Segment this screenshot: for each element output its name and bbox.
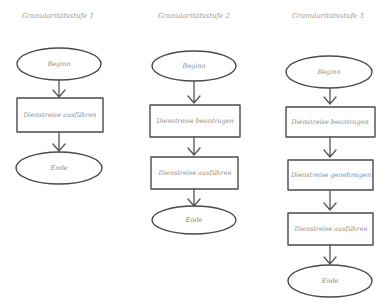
- arrow-down-icon: [324, 137, 336, 157]
- arrow-down-icon: [324, 190, 336, 210]
- column-granularity-3: Granularitätsstufe 3 Beginn Dienstreise …: [286, 12, 375, 297]
- node-terminal-start: Beginn: [152, 51, 236, 81]
- node-label: Dienstreise beantragen: [155, 117, 233, 125]
- column-granularity-1: Granularitätsstufe 1 Beginn Dienstreise …: [16, 12, 103, 184]
- node-label: Dienstreise ausführen: [294, 225, 368, 233]
- node-label: Dienstreise ausführen: [158, 169, 232, 177]
- node-label: Beginn: [46, 60, 70, 68]
- arrow-down-icon: [188, 137, 200, 155]
- flowchart-canvas: Granularitätsstufe 1 Beginn Dienstreise …: [0, 0, 392, 305]
- column-title: Granularitätsstufe 3: [292, 12, 364, 20]
- node-process: Dienstreise ausführen: [17, 98, 103, 132]
- arrow-down-icon: [324, 88, 336, 104]
- node-label: Beginn: [316, 68, 340, 76]
- node-process: Dienstreise beantragen: [150, 105, 240, 137]
- arrow-down-icon: [324, 245, 336, 264]
- node-process: Dienstreise ausführen: [288, 213, 373, 245]
- arrow-down-icon: [188, 189, 200, 206]
- node-process: Dienstreise beantragen: [286, 107, 375, 137]
- node-label: Ende: [321, 277, 339, 285]
- node-process: Dienstreise ausführen: [151, 157, 238, 189]
- node-label: Ende: [185, 216, 203, 224]
- node-label: Dienstreise genehmigen: [290, 171, 371, 179]
- node-process: Dienstreise genehmigen: [288, 160, 373, 190]
- node-terminal-end: Ende: [288, 265, 372, 297]
- node-label: Dienstreise beantragen: [290, 118, 368, 126]
- node-terminal-end: Ende: [16, 152, 102, 184]
- column-title: Granularitätsstufe 1: [22, 12, 94, 20]
- column-granularity-2: Granularitätsstufe 2 Beginn Dienstreise …: [150, 12, 240, 234]
- node-label: Beginn: [181, 62, 205, 70]
- node-label: Ende: [50, 164, 68, 172]
- column-title: Granularitätsstufe 2: [158, 12, 230, 20]
- arrow-down-icon: [53, 132, 65, 151]
- node-terminal-end: Ende: [152, 206, 236, 234]
- node-terminal-start: Beginn: [17, 48, 101, 80]
- arrow-down-icon: [188, 81, 200, 103]
- node-terminal-start: Beginn: [286, 56, 372, 88]
- node-label: Dienstreise ausführen: [23, 111, 97, 119]
- arrow-down-icon: [53, 80, 65, 97]
